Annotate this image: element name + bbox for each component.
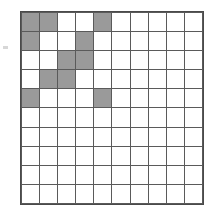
grid-cell-empty	[184, 127, 202, 146]
grid-cell-empty	[58, 89, 76, 108]
grid-cell-empty	[130, 13, 148, 32]
grid-cell-empty	[166, 32, 184, 51]
grid-cell-empty	[22, 51, 40, 70]
grid-cell-empty	[94, 165, 112, 184]
grid-cell-empty	[58, 108, 76, 127]
grid-cell-empty	[148, 51, 166, 70]
grid-cell-shaded	[40, 13, 58, 32]
grid-cell-empty	[148, 89, 166, 108]
grid-cell-empty	[40, 51, 58, 70]
grid-cell-empty	[148, 70, 166, 89]
grid-cell-shaded	[22, 32, 40, 51]
grid-cell-empty	[76, 108, 94, 127]
grid-cell-empty	[40, 127, 58, 146]
grid-figure	[20, 11, 204, 205]
grid-row	[22, 70, 203, 89]
grid-cell-empty	[58, 146, 76, 165]
grid-cell-empty	[76, 127, 94, 146]
grid-row	[22, 89, 203, 108]
grid-cell-empty	[76, 89, 94, 108]
grid-cell-empty	[184, 165, 202, 184]
grid-cell-empty	[130, 89, 148, 108]
grid-cell-empty	[184, 184, 202, 203]
grid-cell-empty	[112, 184, 130, 203]
grid-cell-empty	[184, 32, 202, 51]
grid-cell-empty	[130, 108, 148, 127]
grid-row	[22, 13, 203, 32]
grid-cell-empty	[166, 13, 184, 32]
grid-cell-empty	[130, 165, 148, 184]
grid-cell-empty	[76, 184, 94, 203]
grid-cell-empty	[130, 32, 148, 51]
grid-cell-empty	[22, 146, 40, 165]
grid-cell-empty	[166, 127, 184, 146]
grid-cell-empty	[94, 51, 112, 70]
grid-cell-empty	[166, 146, 184, 165]
grid-cell-shaded	[22, 89, 40, 108]
grid-cell-empty	[184, 89, 202, 108]
grid-cell-empty	[112, 89, 130, 108]
grid-cell-empty	[22, 70, 40, 89]
grid-cell-empty	[112, 127, 130, 146]
grid-cell-empty	[94, 108, 112, 127]
grid-cell-empty	[94, 32, 112, 51]
grid-cell-empty	[112, 146, 130, 165]
grid-cell-empty	[76, 13, 94, 32]
grid-cell-empty	[148, 108, 166, 127]
grid-cell-empty	[112, 165, 130, 184]
grid-cell-empty	[184, 70, 202, 89]
grid-cell-empty	[112, 51, 130, 70]
grid-cell-shaded	[58, 70, 76, 89]
grid-row	[22, 32, 203, 51]
grid-cell-empty	[148, 13, 166, 32]
grid-cell-shaded	[40, 70, 58, 89]
grid-cell-empty	[166, 165, 184, 184]
grid-cell-empty	[40, 89, 58, 108]
grid-cell-empty	[22, 127, 40, 146]
grid-row	[22, 146, 203, 165]
grid-cell-empty	[58, 165, 76, 184]
grid-cell-empty	[94, 70, 112, 89]
grid-body	[22, 13, 203, 204]
grid-cell-empty	[130, 146, 148, 165]
grid-cell-empty	[40, 146, 58, 165]
grid-cell-empty	[94, 184, 112, 203]
grid-cell-empty	[40, 165, 58, 184]
grid-cell-empty	[184, 146, 202, 165]
grid-cell-empty	[94, 146, 112, 165]
grid-cell-empty	[184, 108, 202, 127]
grid-cell-shaded	[76, 32, 94, 51]
grid-cell-shaded	[76, 51, 94, 70]
grid-cell-empty	[58, 184, 76, 203]
grid-row	[22, 184, 203, 203]
grid-row	[22, 108, 203, 127]
grid-cell-empty	[22, 165, 40, 184]
grid-row	[22, 127, 203, 146]
grid-cell-empty	[22, 184, 40, 203]
grid-cell-empty	[148, 165, 166, 184]
grid-cell-empty	[130, 70, 148, 89]
scan-artifact-mark	[3, 46, 8, 49]
grid-cell-empty	[166, 108, 184, 127]
grid-cell-empty	[148, 127, 166, 146]
grid-cell-empty	[40, 32, 58, 51]
grid-cell-empty	[184, 51, 202, 70]
grid-cell-empty	[148, 184, 166, 203]
grid-cell-empty	[112, 13, 130, 32]
grid-cell-empty	[40, 184, 58, 203]
grid-row	[22, 165, 203, 184]
grid-cell-empty	[166, 89, 184, 108]
grid-cell-empty	[94, 127, 112, 146]
grid-cell-empty	[40, 108, 58, 127]
grid-cell-empty	[58, 127, 76, 146]
grid-cell-empty	[58, 32, 76, 51]
grid-cell-empty	[166, 70, 184, 89]
grid-cell-empty	[130, 127, 148, 146]
grid-cell-empty	[112, 70, 130, 89]
grid-cell-shaded	[22, 13, 40, 32]
grid-row	[22, 51, 203, 70]
grid-cell-empty	[130, 51, 148, 70]
grid-cell-empty	[76, 165, 94, 184]
grid-cell-empty	[76, 70, 94, 89]
grid-cell-shaded	[94, 89, 112, 108]
